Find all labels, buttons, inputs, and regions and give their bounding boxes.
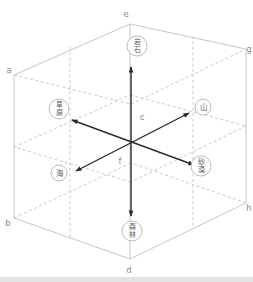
word-node-top: 岩石 xyxy=(127,36,147,56)
cube-hidden-edge xyxy=(131,49,246,104)
vertex-label-a: a xyxy=(6,65,11,75)
vertex-label-g: g xyxy=(246,44,251,54)
vertex-label-d: d xyxy=(126,265,131,275)
cube-edge xyxy=(14,218,130,259)
cube-hidden-edge xyxy=(14,163,131,218)
diagram-canvas: 岩石草原山海砂漠森林eagbhdcf xyxy=(0,0,253,282)
cube-edge xyxy=(14,24,130,75)
cube-diagram: 岩石草原山海砂漠森林eagbhdcf xyxy=(0,0,253,282)
vertex-label-e: e xyxy=(123,9,128,19)
cube-hidden-edge xyxy=(131,163,246,203)
word-node-left-lower: 海 xyxy=(51,165,67,181)
axis-nw-se-arrow xyxy=(72,120,194,165)
cube-hidden-edge xyxy=(130,95,246,126)
word-node-label: 海 xyxy=(56,168,64,178)
cube-edge xyxy=(130,203,246,259)
vertex-label-f: f xyxy=(119,156,123,166)
word-node-left-upper: 草原 xyxy=(49,99,69,119)
word-node-label: 原 xyxy=(56,109,63,117)
word-node-label: 林 xyxy=(129,230,136,239)
vertex-label-b: b xyxy=(5,218,10,228)
word-node-label: 岩 xyxy=(134,37,141,46)
cube-hidden-edge xyxy=(14,75,131,104)
word-node-right-upper: 山 xyxy=(195,99,211,115)
word-node-label: 山 xyxy=(200,102,207,112)
word-node-label: 砂 xyxy=(198,157,205,166)
vertex-label-h: h xyxy=(246,203,251,213)
word-node-label: 石 xyxy=(134,46,141,54)
word-node-right-lower: 砂漠 xyxy=(191,156,211,176)
word-node-label: 森 xyxy=(129,222,136,231)
word-node-bottom: 森林 xyxy=(122,221,142,241)
bottom-strip xyxy=(0,277,253,282)
cube-hidden-edge xyxy=(14,95,130,147)
vertex-label-c: c xyxy=(140,112,145,122)
word-node-label: 草 xyxy=(56,100,63,109)
word-node-label: 漠 xyxy=(198,165,205,174)
